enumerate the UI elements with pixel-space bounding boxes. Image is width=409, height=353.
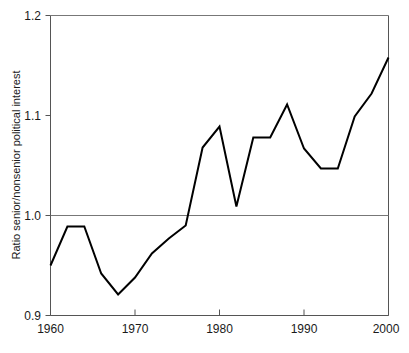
x-tick-label-1970: 1970	[122, 322, 149, 336]
y-tick-label-1.2: 1.2	[24, 9, 41, 23]
y-tick-label-0.9: 0.9	[24, 309, 41, 323]
x-tick-label-1990: 1990	[291, 322, 318, 336]
x-tick-label-1980: 1980	[206, 322, 233, 336]
chart-background	[0, 0, 409, 353]
chart-figure: 1.2 1.1 1.0 0.9 1960 1970 1980 1990 2000…	[0, 0, 409, 353]
line-chart: 1.2 1.1 1.0 0.9 1960 1970 1980 1990 2000…	[0, 0, 409, 353]
x-tick-label-2000: 2000	[373, 322, 400, 336]
y-axis-title: Ratio senior/nonsenior political interes…	[10, 71, 22, 260]
y-tick-label-1.1: 1.1	[24, 109, 41, 123]
x-tick-label-1960: 1960	[37, 322, 64, 336]
y-tick-label-1.0: 1.0	[24, 209, 41, 223]
